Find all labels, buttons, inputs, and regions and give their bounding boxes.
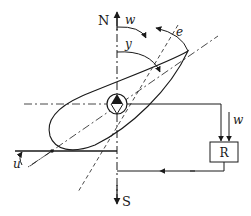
- regulator-label: R: [219, 146, 229, 160]
- ship-heading-diagram: N S y w e w R u: [0, 0, 251, 216]
- setpoint-input-label: w: [233, 113, 244, 127]
- e-angle-arc: [156, 28, 188, 51]
- rudder-command-line: [190, 162, 224, 171]
- u-angle-label: u: [13, 157, 21, 171]
- w-angle-label: w: [125, 13, 136, 27]
- rudder-pivot: [50, 149, 54, 153]
- south-label: S: [122, 194, 131, 209]
- e-angle-label: e: [176, 25, 183, 39]
- y-angle-label: y: [124, 37, 132, 51]
- y-angle-arc: [117, 52, 160, 72]
- north-label: N: [98, 13, 109, 28]
- compass-icon: [107, 94, 127, 114]
- heading-signal-line: [127, 104, 221, 141]
